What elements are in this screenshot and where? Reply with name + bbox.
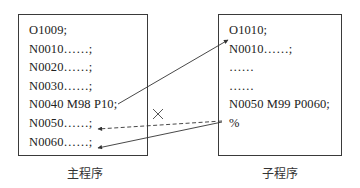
sub-line-4: N0050 M99 P0060; [229, 95, 330, 114]
main-line-3: N0030……; [29, 77, 92, 96]
cross-mark-icon [153, 109, 163, 119]
main-line-1: N0010……; [29, 40, 92, 59]
sub-line-1: N0010……; [229, 40, 292, 59]
main-line-4: N0040 M98 P10; [29, 95, 117, 114]
sub-line-5: % [229, 114, 240, 133]
sub-line-2: …… [229, 58, 254, 77]
main-line-5: N0050……; [29, 114, 92, 133]
sub-line-0: O1010; [229, 21, 267, 40]
sub-program-caption: 子程序 [245, 164, 315, 181]
main-program-box: O1009; N0010……; N0020……; N0030……; N0040 … [18, 14, 148, 156]
sub-program-box: O1010; N0010……; …… …… N0050 M99 P0060; % [218, 14, 342, 156]
main-line-0: O1009; [29, 21, 67, 40]
sub-line-3: …… [229, 77, 254, 96]
main-program-caption: 主程序 [50, 164, 120, 181]
main-line-6: N0060……; [29, 133, 92, 152]
main-line-2: N0020……; [29, 58, 92, 77]
